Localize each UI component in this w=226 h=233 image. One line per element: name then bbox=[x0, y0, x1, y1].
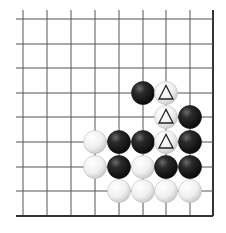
white-stone[interactable] bbox=[84, 131, 107, 154]
black-stone[interactable] bbox=[108, 131, 131, 154]
black-stone[interactable] bbox=[179, 106, 202, 129]
black-stone-body bbox=[132, 82, 155, 105]
go-board bbox=[0, 0, 226, 233]
white-stone-body bbox=[84, 156, 107, 179]
black-stone[interactable] bbox=[155, 156, 178, 179]
white-stone[interactable] bbox=[155, 180, 178, 203]
white-stone[interactable] bbox=[132, 156, 155, 179]
black-stone-body bbox=[179, 156, 202, 179]
white-stone-body bbox=[108, 180, 131, 203]
white-stone-body bbox=[155, 180, 178, 203]
black-stone[interactable] bbox=[132, 82, 155, 105]
white-stone[interactable] bbox=[132, 180, 155, 203]
white-stone[interactable] bbox=[84, 156, 107, 179]
white-stone[interactable] bbox=[155, 131, 178, 154]
black-stone-body bbox=[179, 131, 202, 154]
black-stone-body bbox=[132, 131, 155, 154]
black-stone[interactable] bbox=[108, 156, 131, 179]
black-stone[interactable] bbox=[132, 131, 155, 154]
white-stone-body bbox=[132, 156, 155, 179]
white-stone-body bbox=[179, 180, 202, 203]
black-stone-body bbox=[155, 156, 178, 179]
stones-layer bbox=[84, 82, 202, 203]
black-stone[interactable] bbox=[179, 156, 202, 179]
white-stone[interactable] bbox=[155, 106, 178, 129]
black-stone-body bbox=[108, 131, 131, 154]
black-stone-body bbox=[179, 106, 202, 129]
white-stone[interactable] bbox=[108, 180, 131, 203]
white-stone-body bbox=[132, 180, 155, 203]
white-stone[interactable] bbox=[155, 82, 178, 105]
black-stone-body bbox=[108, 156, 131, 179]
white-stone[interactable] bbox=[179, 180, 202, 203]
white-stone-body bbox=[84, 131, 107, 154]
black-stone[interactable] bbox=[179, 131, 202, 154]
